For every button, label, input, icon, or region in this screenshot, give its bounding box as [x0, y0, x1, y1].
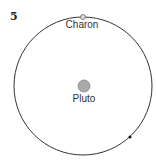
pluto-label: Pluto — [64, 93, 104, 104]
figure-number: 5 — [10, 10, 18, 23]
pluto-body — [78, 80, 90, 92]
charon-label: Charon — [62, 19, 102, 30]
orbit-marker-dot — [129, 136, 132, 139]
